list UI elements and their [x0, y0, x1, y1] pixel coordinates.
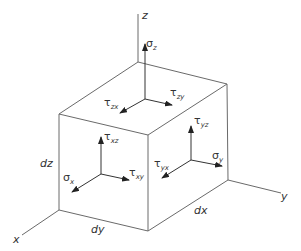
dy-label: dy	[91, 223, 105, 236]
sigma-x-label: σx	[63, 171, 75, 186]
y-axis	[228, 180, 281, 193]
dimension-labels: dz dy dx	[40, 157, 208, 236]
sigma-x-arrow	[72, 174, 101, 192]
sigma-z-label: σz	[146, 37, 157, 52]
cube-edge	[59, 62, 138, 114]
tau-zx-arrow	[120, 99, 145, 113]
tau-yz-label: τyz	[194, 114, 209, 129]
tau-zx-label: τzx	[104, 96, 119, 111]
tau-xz-label: τxz	[104, 130, 119, 145]
tau-xy-arrow	[101, 174, 129, 180]
front-face-stresses: τxz τxy σx	[63, 130, 145, 192]
tau-zy-arrow	[145, 99, 172, 105]
cube-edge	[148, 84, 227, 135]
y-axis-label: y	[280, 190, 288, 203]
dx-label: dx	[194, 204, 208, 217]
x-axis	[22, 210, 59, 235]
dz-label: dz	[40, 157, 53, 170]
tau-yx-label: τyx	[154, 157, 170, 172]
cube-edge	[148, 180, 228, 231]
tau-xy-label: τxy	[129, 166, 145, 181]
cube-edge	[138, 62, 227, 84]
tau-zy-label: τzy	[170, 86, 185, 101]
cube-edge	[227, 84, 228, 180]
stress-element-diagram: z x y σz τzx τzy	[0, 0, 301, 251]
right-face-stresses: τyz σy τyx	[154, 114, 224, 178]
top-face-stresses: σz τzx τzy	[104, 37, 185, 113]
z-axis-label: z	[141, 9, 148, 22]
x-axis-label: x	[12, 233, 20, 246]
sigma-y-label: σy	[212, 149, 224, 164]
